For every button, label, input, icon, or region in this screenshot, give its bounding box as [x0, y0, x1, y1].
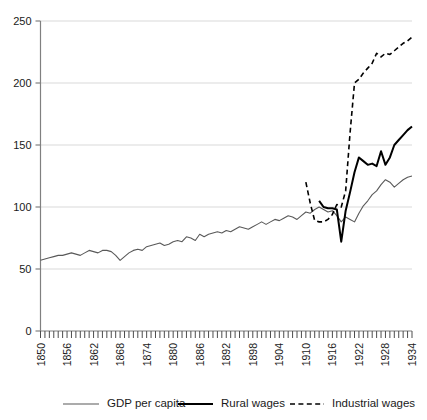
x-tick-label: 1910: [300, 343, 312, 367]
legend-label-gdp-per-capita: GDP per capita: [107, 397, 186, 409]
chart-container: 050100150200250 185018561862186818741880…: [0, 0, 427, 420]
y-tick-label: 250: [13, 15, 31, 27]
legend-label-rural-wages: Rural wages: [221, 397, 285, 409]
x-tick-label: 1916: [326, 343, 338, 367]
x-tick-label: 1862: [88, 343, 100, 367]
y-tick-label: 200: [13, 77, 31, 89]
y-tick-label: 100: [13, 201, 31, 213]
chart-legend: GDP per capitaRural wagesIndustrial wage…: [63, 397, 415, 409]
series-line-industrial-wages: [306, 37, 412, 222]
x-tick-label: 1922: [353, 343, 365, 367]
x-tick-label: 1898: [247, 343, 259, 367]
x-tick-label: 1934: [406, 343, 418, 367]
x-tick-label: 1904: [273, 343, 285, 367]
x-tick-label: 1856: [61, 343, 73, 367]
data-series: [41, 37, 413, 260]
x-tick-label: 1868: [114, 343, 126, 367]
y-tick-label: 50: [19, 263, 31, 275]
y-tick-label: 150: [13, 139, 31, 151]
y-tick-label: 0: [25, 325, 31, 337]
x-tick-label: 1886: [194, 343, 206, 367]
legend-label-industrial-wages: Industrial wages: [332, 397, 415, 409]
series-line-gdp-per-capita: [41, 176, 413, 260]
x-tick-label: 1880: [167, 343, 179, 367]
x-tick-label: 1892: [220, 343, 232, 367]
x-tick-label: 1874: [141, 343, 153, 367]
gridlines: [41, 21, 413, 269]
x-tick-label: 1928: [379, 343, 391, 367]
line-chart: 050100150200250 185018561862186818741880…: [0, 0, 427, 420]
y-axis: 050100150200250: [13, 15, 40, 337]
x-tick-label: 1850: [35, 343, 47, 367]
x-axis: 1850185618621868187418801886189218981904…: [35, 331, 419, 366]
